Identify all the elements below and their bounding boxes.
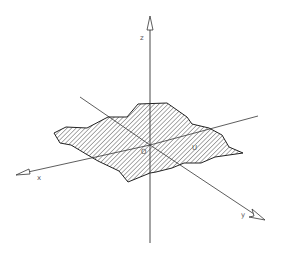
y-axis-label: y: [241, 211, 245, 219]
origin-label: O: [141, 148, 147, 156]
y-axis-arrowhead-icon: [249, 209, 265, 220]
region-u: [54, 103, 243, 182]
diagram-canvas: z x y O U: [0, 0, 283, 262]
z-axis-arrowhead-icon: [147, 16, 153, 30]
z-axis-label: z: [140, 34, 144, 42]
x-axis-arrowhead-icon: [16, 169, 30, 175]
x-axis-label: x: [37, 174, 41, 182]
region-label: U: [192, 144, 197, 152]
